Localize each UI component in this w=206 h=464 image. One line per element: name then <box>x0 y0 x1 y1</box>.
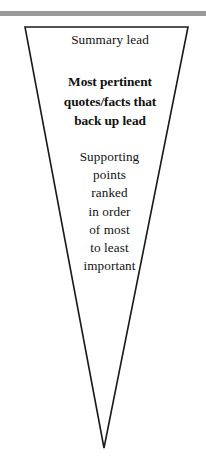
tier-line: Most pertinent <box>0 72 206 92</box>
tier-line: Summary lead <box>0 31 206 48</box>
tier-line: important <box>0 257 206 275</box>
tier-supporting-points: Supporting points ranked in order of mos… <box>0 148 206 275</box>
tier-line: points <box>0 166 206 184</box>
tier-line: ranked <box>0 184 206 202</box>
tier-summary-lead: Summary lead <box>0 31 206 48</box>
inverted-pyramid-diagram: Summary lead Most pertinent quotes/facts… <box>0 0 206 464</box>
tier-line: quotes/facts that <box>0 92 206 112</box>
tier-line: back up lead <box>0 111 206 131</box>
pyramid-text-layer: Summary lead Most pertinent quotes/facts… <box>0 0 206 464</box>
tier-line: Supporting <box>0 148 206 166</box>
tier-line: in order <box>0 203 206 221</box>
tier-line: of most <box>0 221 206 239</box>
tier-line: to least <box>0 239 206 257</box>
tier-supporting-quotes: Most pertinent quotes/facts that back up… <box>0 72 206 131</box>
